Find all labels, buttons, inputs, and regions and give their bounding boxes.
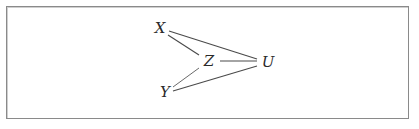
- edge-x-z: [168, 35, 199, 55]
- node-x: X: [155, 21, 166, 36]
- edge-y-u: [173, 66, 257, 91]
- node-u: U: [262, 55, 275, 70]
- node-y: Y: [160, 85, 170, 100]
- node-z: Z: [204, 54, 214, 69]
